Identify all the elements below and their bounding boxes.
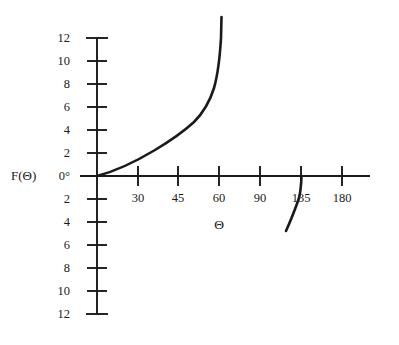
y-tick-label-4-lower: 4 (44, 216, 70, 229)
y-axis-title: F(Θ) (11, 169, 36, 182)
y-tick-label-10-lower: 10 (44, 285, 70, 298)
x-tick-label-60: 60 (202, 192, 236, 205)
curve-branch-positive (97, 17, 222, 176)
y-tick-label-2-lower: 2 (44, 193, 70, 206)
y-tick-label-zero: 0° (44, 170, 70, 183)
x-axis-title: Θ (204, 218, 234, 232)
y-tick-label-6-upper: 6 (44, 101, 70, 114)
figure-canvas: 12 10 8 6 4 2 0° 2 4 6 8 10 12 30 45 60 … (0, 0, 399, 345)
y-tick-label-12-lower: 12 (44, 308, 70, 321)
y-tick-label-4-upper: 4 (44, 124, 70, 137)
y-tick-label-6-lower: 6 (44, 239, 70, 252)
x-tick-label-180: 180 (325, 192, 359, 205)
x-tick-label-90: 90 (243, 192, 277, 205)
y-tick-label-8-lower: 8 (44, 262, 70, 275)
y-tick-label-2-upper: 2 (44, 147, 70, 160)
y-tick-label-8-upper: 8 (44, 78, 70, 91)
x-tick-label-135: 135 (284, 192, 318, 205)
x-tick-label-30: 30 (121, 192, 155, 205)
y-tick-label-12-upper: 12 (44, 32, 70, 45)
y-tick-label-10-upper: 10 (44, 55, 70, 68)
x-tick-label-45: 45 (161, 192, 195, 205)
